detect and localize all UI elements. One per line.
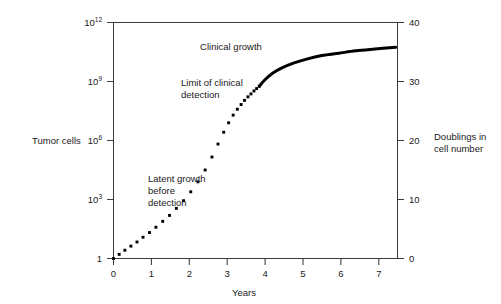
chart-canvas: 1012 109 106 103 1 40 30 20 10 xyxy=(0,0,501,304)
x-tick-label-6: 6 xyxy=(338,268,343,279)
data-point-dot xyxy=(204,169,207,172)
data-point-dot xyxy=(148,231,151,234)
data-point-dot xyxy=(168,214,171,217)
left-tick-label-1: 1 xyxy=(97,253,102,264)
annotation-latent-line3: detection xyxy=(148,197,187,208)
annotation-clinical-growth: Clinical growth xyxy=(200,41,262,52)
data-point-dot xyxy=(222,131,225,134)
series-clinical-growth-solid xyxy=(259,47,395,86)
data-point-dot xyxy=(142,236,145,239)
data-point-dot xyxy=(211,156,214,159)
data-point-dot xyxy=(118,253,121,256)
x-tick-label-2: 2 xyxy=(187,268,192,279)
right-tick-label-10: 10 xyxy=(409,194,420,205)
x-tick-label-1: 1 xyxy=(149,268,154,279)
right-axis-title-line2: cell number xyxy=(434,143,483,154)
data-point-dot xyxy=(253,89,256,92)
left-axis-ticks xyxy=(107,23,114,259)
data-point-dot xyxy=(123,249,126,252)
right-tick-label-30: 30 xyxy=(409,76,420,87)
left-tick-label-1e6: 106 xyxy=(88,134,103,146)
right-axis-title-line1: Doublings in xyxy=(434,131,486,142)
left-tick-label-1e9: 109 xyxy=(88,75,103,87)
data-point-dot xyxy=(161,220,164,223)
data-point-dot xyxy=(189,190,192,193)
x-tick-label-0: 0 xyxy=(111,268,116,279)
right-axis-tick-labels: 40 30 20 10 0 xyxy=(409,17,420,264)
x-tick-label-5: 5 xyxy=(300,268,305,279)
annotation-latent-line1: Latent growth xyxy=(148,173,206,184)
annotation-limit-line1: Limit of clinical xyxy=(181,77,243,88)
left-axis-title: Tumor cells xyxy=(32,135,81,146)
axis-lines xyxy=(114,22,405,259)
data-point-dot xyxy=(154,226,157,229)
bottom-axis-title: Years xyxy=(232,287,256,298)
data-point-dot xyxy=(129,245,132,248)
x-tick-label-7: 7 xyxy=(376,268,381,279)
annotation-limit-line2: detection xyxy=(181,89,220,100)
data-point-dot xyxy=(240,103,243,106)
left-tick-label-1e3: 103 xyxy=(88,193,103,205)
right-axis-ticks xyxy=(398,23,405,259)
right-tick-label-20: 20 xyxy=(409,135,420,146)
x-tick-label-3: 3 xyxy=(225,268,230,279)
data-point-dot xyxy=(232,114,235,117)
data-point-dot xyxy=(112,257,115,260)
data-point-dot xyxy=(243,99,246,102)
data-point-dot xyxy=(217,143,220,146)
left-tick-label-1e12: 1012 xyxy=(84,16,102,28)
data-point-dot xyxy=(250,92,253,95)
left-axis-tick-labels: 1012 109 106 103 1 xyxy=(84,16,102,264)
x-tick-label-4: 4 xyxy=(262,268,267,279)
right-tick-label-0: 0 xyxy=(409,253,414,264)
right-tick-label-40: 40 xyxy=(409,17,420,28)
data-point-dot xyxy=(227,121,230,124)
bottom-axis-tick-labels: 0 1 2 3 4 5 6 7 xyxy=(111,268,382,279)
data-point-dot xyxy=(136,241,139,244)
data-point-dot xyxy=(236,108,239,111)
annotation-latent-line2: before xyxy=(148,185,175,196)
bottom-axis-ticks xyxy=(114,259,379,266)
data-point-dot xyxy=(246,95,249,98)
data-point-dot xyxy=(255,87,258,90)
tumor-growth-chart-figure: 1012 109 106 103 1 40 30 20 10 xyxy=(0,0,501,304)
